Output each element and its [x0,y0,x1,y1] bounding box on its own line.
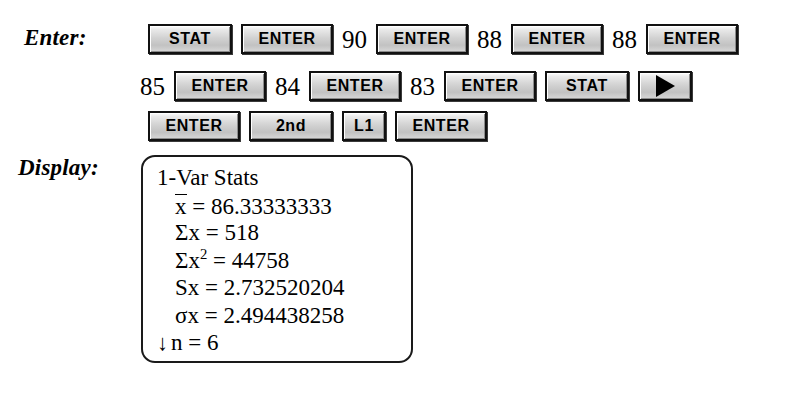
key-enter[interactable]: ENTER [148,111,240,141]
key-enter[interactable]: ENTER [511,24,603,54]
scroll-down-arrow-icon: ↓ [157,332,168,354]
calculator-display-box: 1-Var Statsx = 86.33333333Σx = 518Σx2 = … [141,155,413,363]
display-variable: n [171,330,183,355]
key-enter[interactable]: ENTER [174,71,266,101]
typed-value-88: 88 [477,27,502,52]
key-enter[interactable]: ENTER [444,71,536,101]
keypad-row-3: ENTER2ndL1ENTER [148,111,496,141]
typed-value-85: 85 [140,74,165,99]
display-variable: x [175,192,187,221]
enter-section-label: Enter: [24,25,87,51]
key-label: ENTER [258,31,315,47]
display-value: 518 [224,220,259,245]
display-value: 44758 [232,248,290,273]
display-variable: Σx [175,248,200,273]
keypad-row-1: STATENTER90ENTER88ENTER88ENTER [148,24,747,54]
key-label: ENTER [165,118,222,134]
display-exponent: 2 [200,246,207,262]
key-stat[interactable]: STAT [545,71,629,101]
typed-value-88: 88 [612,27,637,52]
display-section-label: Display: [18,155,99,181]
display-equals: = [192,194,205,219]
key-enter[interactable]: ENTER [241,24,333,54]
right-arrow-icon [656,75,675,97]
key-label: ENTER [393,31,450,47]
key-label: ENTER [412,118,469,134]
display-line-sigmax: σx = 2.494438258 [157,302,411,330]
display-equals: = [213,248,226,273]
key-label: L1 [354,118,374,134]
display-value: 86.33333333 [211,194,332,219]
display-value: 6 [207,330,219,355]
display-equals: = [205,275,218,300]
display-variable: Sx [175,275,199,300]
calculator-display-lines: 1-Var Statsx = 86.33333333Σx = 518Σx2 = … [143,157,411,357]
display-variable: σx [175,303,199,328]
typed-value-84: 84 [275,74,300,99]
key-right-arrow[interactable] [638,71,692,101]
key-enter[interactable]: ENTER [376,24,468,54]
key-enter[interactable]: ENTER [309,71,401,101]
display-value: 2.494438258 [223,303,344,328]
display-variable: Σx [175,220,200,245]
key-enter[interactable]: ENTER [646,24,738,54]
display-variable: 1-Var Stats [157,165,259,190]
display-equals: = [205,303,218,328]
typed-value-90: 90 [342,27,367,52]
key-2nd[interactable]: 2nd [249,111,333,141]
key-stat[interactable]: STAT [148,24,232,54]
key-label: 2nd [276,118,306,134]
key-label: STAT [169,31,211,47]
key-label: STAT [566,78,608,94]
key-enter[interactable]: ENTER [395,111,487,141]
display-line-sumx2: Σx2 = 44758 [157,247,411,275]
display-line-title: 1-Var Stats [157,164,411,192]
key-label: ENTER [326,78,383,94]
display-line-sx: Sx = 2.732520204 [157,274,411,302]
key-label: ENTER [663,31,720,47]
display-equals: = [188,330,201,355]
keypad-row-2: 85ENTER84ENTER83ENTERSTAT [140,71,701,101]
key-label: ENTER [191,78,248,94]
typed-value-83: 83 [410,74,435,99]
key-label: ENTER [528,31,585,47]
display-line-xbar: x = 86.33333333 [157,192,411,220]
key-label: ENTER [461,78,518,94]
display-line-n: ↓n = 6 [157,329,411,357]
display-equals: = [206,220,219,245]
display-line-sumx: Σx = 518 [157,219,411,247]
display-value: 2.732520204 [224,275,345,300]
key-l1[interactable]: L1 [342,111,386,141]
